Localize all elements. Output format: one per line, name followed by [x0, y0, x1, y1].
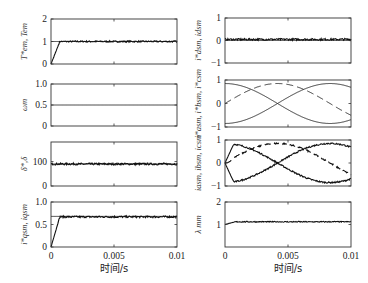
y-axis-label: δ*,δ — [19, 156, 29, 171]
y-tick-label: −1 — [211, 181, 221, 191]
series-idsm — [225, 39, 351, 41]
y-tick-label: 0 — [42, 59, 47, 69]
series-icsm — [225, 143, 351, 182]
subplot-iref3: −101i*asm, i*bsm, i*csm — [193, 69, 351, 138]
series-i*csm — [225, 84, 351, 124]
y-tick-label: 1 — [216, 75, 221, 85]
axes-frame — [51, 202, 177, 247]
x-axis-label: 时间/s — [100, 262, 129, 274]
y-tick-label: 0 — [216, 158, 221, 168]
y-tick-label: 0 — [42, 181, 47, 191]
x-tick-label: 0.01 — [343, 251, 360, 261]
y-tick-label: 100 — [33, 157, 48, 167]
series-ibsm — [225, 143, 351, 175]
series-λmm — [225, 221, 351, 224]
y-tick-label: −1 — [211, 58, 221, 68]
series-iqsm — [51, 216, 177, 247]
y-tick-label: 0.5 — [35, 220, 47, 230]
y-axis-label: λ mm — [193, 215, 203, 234]
y-tick-label: 2 — [216, 197, 221, 207]
x-tick-label: 0 — [223, 251, 228, 261]
series-δ — [51, 163, 177, 165]
y-axis-label: i*asm, i*bsm, i*csm — [193, 69, 203, 138]
y-tick-label: 1 — [216, 13, 221, 23]
y-tick-label: 2 — [42, 14, 47, 24]
y-tick-label: 0 — [216, 36, 221, 46]
y-tick-label: 0 — [42, 121, 47, 131]
y-tick-label: 1 — [42, 37, 47, 47]
subplot-i3: −101iasm, ibsm, icsm — [193, 135, 351, 191]
axes-frame — [225, 202, 351, 247]
subplot-delta: 0100δ*,δ — [19, 142, 177, 191]
y-tick-label: 1 — [216, 220, 221, 230]
y-tick-label: 0.5 — [35, 100, 47, 110]
series-i*bsm — [225, 84, 351, 116]
y-tick-label: 1.0 — [35, 79, 47, 89]
y-axis-label: i*qsm, iqsm — [19, 204, 29, 245]
x-axis-label: 时间/s — [274, 262, 303, 274]
x-tick-label: 0 — [49, 251, 54, 261]
x-tick-label: 0.005 — [277, 251, 299, 261]
series-Tem — [51, 41, 177, 64]
x-tick-label: 0.01 — [169, 251, 186, 261]
x-tick-label: 0.005 — [103, 251, 125, 261]
y-tick-label: −1 — [211, 122, 221, 132]
y-axis-label: T*em, Tem — [19, 23, 29, 60]
y-tick-label: 0 — [216, 99, 221, 109]
subplot-lambda: 1200.0050.01时间/sλ mm — [193, 197, 360, 274]
subplot-iqsm: 00.51.000.0050.01时间/si*qsm, iqsm — [19, 197, 186, 274]
figure: 012T*em, Tem00.51.0ωm0100δ*,δ00.51.000.0… — [0, 0, 368, 283]
subplot-wm: 00.51.0ωm — [19, 79, 177, 131]
subplot-idsm: −101i*dsm, idsm — [193, 13, 351, 68]
y-axis-label: iasm, ibsm, icsm — [193, 135, 203, 191]
y-tick-label: 0 — [42, 242, 47, 252]
y-axis-label: i*dsm, idsm — [193, 20, 203, 61]
y-tick-label: 1.0 — [35, 197, 47, 207]
series-i*asm — [225, 84, 351, 124]
y-axis-label: ωm — [19, 99, 29, 111]
subplot-te: 012T*em, Tem — [19, 14, 177, 69]
y-tick-label: 1 — [216, 135, 221, 145]
